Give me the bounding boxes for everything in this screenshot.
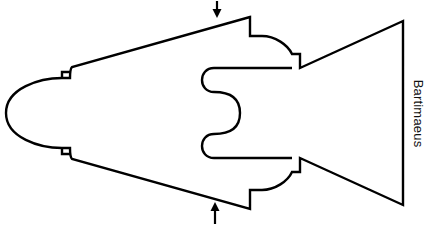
- line-drawing: [0, 0, 436, 226]
- figure-caption: Bartimaeus: [404, 0, 434, 226]
- bottom-arrow-icon: [211, 202, 220, 224]
- shape-outline-path: [6, 17, 403, 209]
- serpentine-notch-path: [202, 68, 292, 158]
- top-arrow-icon: [213, 1, 222, 18]
- figure-canvas: Bartimaeus: [0, 0, 436, 226]
- figure-caption-text: Bartimaeus: [412, 79, 427, 147]
